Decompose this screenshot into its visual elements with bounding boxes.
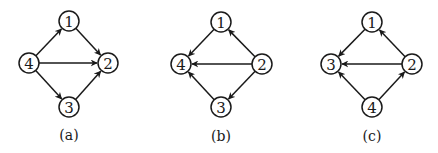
graph-a: 1234(a): [19, 11, 118, 143]
node-label: 2: [103, 55, 113, 73]
edge-4-to-3: [36, 70, 62, 98]
edge-3-to-4: [188, 72, 214, 100]
caption-a: (a): [59, 127, 78, 143]
node-2: 2: [98, 53, 118, 73]
caption-c: (c): [363, 128, 382, 144]
node-label: 1: [216, 14, 226, 32]
node-1: 1: [211, 12, 231, 32]
node-label: 4: [367, 99, 377, 117]
node-1: 1: [59, 11, 79, 31]
node-4: 4: [171, 54, 191, 74]
node-3: 3: [59, 97, 79, 117]
edge-2-to-3: [229, 71, 256, 99]
node-2: 2: [252, 54, 272, 74]
caption-b: (b): [211, 128, 231, 144]
edge-3-to-2: [76, 71, 101, 99]
edge-4-to-3: [339, 72, 366, 100]
node-4: 4: [19, 53, 39, 73]
graph-b: 1234(b): [171, 12, 272, 144]
edge-2-to-1: [229, 30, 255, 57]
edge-4-to-2: [379, 72, 405, 100]
node-3: 3: [211, 97, 231, 117]
node-label: 2: [257, 56, 267, 74]
node-3: 3: [321, 54, 341, 74]
node-label: 3: [216, 99, 226, 117]
node-1: 1: [362, 12, 382, 32]
directed-graphs-figure: 1234(a)1234(b)1234(c): [0, 0, 438, 153]
node-4: 4: [362, 97, 382, 117]
node-label: 1: [64, 13, 74, 31]
edge-1-to-3: [339, 29, 365, 56]
node-label: 1: [367, 14, 377, 32]
graph-c: 1234(c): [321, 12, 422, 144]
node-label: 4: [176, 56, 186, 74]
node-label: 2: [407, 56, 417, 74]
node-label: 3: [64, 99, 74, 117]
edge-2-to-1: [380, 30, 406, 57]
edge-1-to-4: [189, 29, 215, 56]
edge-4-to-1: [36, 29, 62, 56]
node-2: 2: [402, 54, 422, 74]
edge-1-to-2: [76, 28, 101, 55]
node-label: 3: [326, 56, 336, 74]
node-label: 4: [24, 55, 34, 73]
